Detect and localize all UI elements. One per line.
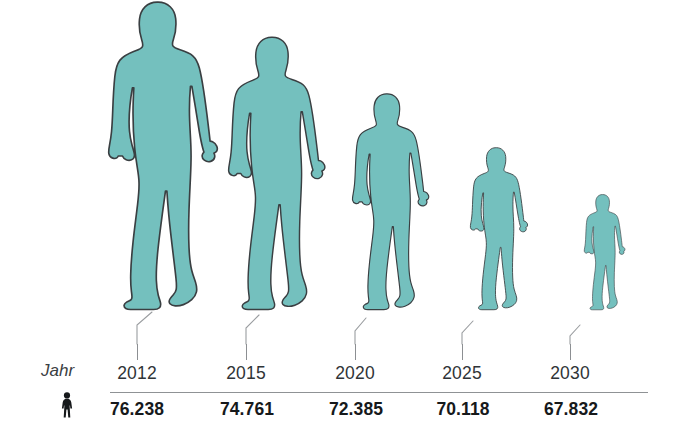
year-label-2025: 2025	[422, 363, 502, 384]
axis-separator-rule	[110, 392, 648, 393]
tick-2012	[137, 344, 138, 360]
year-label-2030: 2030	[530, 363, 610, 384]
year-label-2012: 2012	[97, 363, 177, 384]
value-label-2030: 67.832	[525, 399, 617, 420]
value-label-2020: 72.385	[310, 399, 402, 420]
figure-2025	[470, 148, 527, 310]
tick-2025	[462, 344, 463, 360]
tick-2020	[355, 344, 356, 360]
figure-2020	[352, 94, 428, 310]
value-label-2015: 74.761	[201, 399, 293, 420]
figure-2015	[229, 37, 325, 309]
year-label-2020: 2020	[315, 363, 395, 384]
tick-2015	[246, 344, 247, 360]
person-icon	[60, 392, 74, 418]
figure-2030	[584, 195, 625, 310]
value-label-2025: 70.118	[417, 399, 509, 420]
axis-label-jahr: Jahr	[41, 361, 74, 381]
year-label-2015: 2015	[206, 363, 286, 384]
value-label-2012: 76.238	[91, 399, 183, 420]
tick-2030	[570, 344, 571, 360]
figure-2012	[109, 2, 218, 309]
population-pictogram-chart: Jahr 2012 2015 2020 2025 2030 76.238 74.…	[0, 0, 679, 441]
